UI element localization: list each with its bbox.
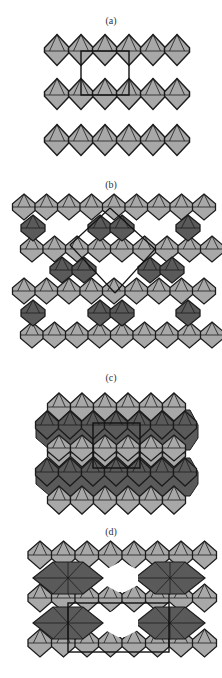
octahedron [45, 79, 70, 110]
octahedron [45, 35, 70, 66]
octahedron [165, 125, 190, 156]
octahedron [45, 125, 70, 156]
panel-d-channel-framework [0, 535, 222, 675]
octahedron [165, 79, 190, 110]
panel-c-layered-framework [0, 380, 222, 520]
octahedron [93, 35, 118, 66]
octahedron [165, 35, 190, 66]
octahedron [141, 79, 166, 110]
panel-a-octahedral-chains [0, 0, 222, 165]
octahedron [93, 125, 118, 156]
octahedron [117, 125, 142, 156]
panel-b-tunnel-framework [0, 185, 222, 350]
octahedron [141, 35, 166, 66]
octahedron [141, 125, 166, 156]
octahedron [69, 125, 94, 156]
octahedron [93, 79, 118, 110]
